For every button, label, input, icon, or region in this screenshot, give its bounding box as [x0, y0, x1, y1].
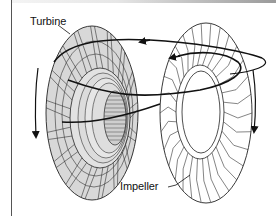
impeller-rotation-arrow [253, 70, 255, 132]
turbine [46, 26, 138, 200]
impeller-label: Impeller [120, 180, 158, 192]
diagram-frame: Turbine Impeller [0, 0, 276, 216]
impeller [160, 23, 252, 203]
impeller-inner-ring [182, 71, 220, 153]
turbine-rotation-arrow [35, 68, 38, 137]
turbine-label: Turbine [30, 15, 66, 27]
